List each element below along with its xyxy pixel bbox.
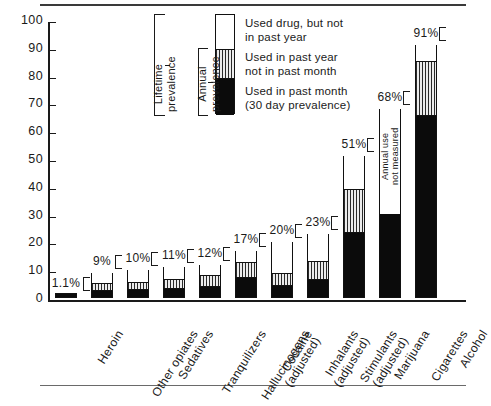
- bar-sedatives[interactable]: [127, 270, 149, 298]
- bar-segment-lifetime-only: [236, 250, 256, 263]
- bar-slot: 91%: [415, 20, 437, 298]
- bar-value-brace: [115, 255, 122, 269]
- bar-segment-past-month: [164, 289, 184, 297]
- bar-segment-lifetime-only: [92, 272, 112, 283]
- bar-value-label: 11%: [162, 248, 186, 262]
- lifetime-prevalence-label: Lifetime prevalence: [152, 56, 178, 112]
- top-rule: [40, 4, 466, 6]
- bar-slot: 1.1%: [55, 20, 77, 298]
- bar-slot: 10%: [127, 20, 149, 298]
- y-axis-tick-label: 40: [28, 180, 43, 194]
- bar-alcohol[interactable]: [415, 45, 437, 298]
- y-axis-tick-label: 70: [28, 96, 43, 110]
- bar-segment-past-month: [56, 294, 76, 297]
- bracket-label-line2: prevalence: [209, 56, 222, 112]
- bar-value-brace: [223, 247, 230, 261]
- bar-segment-lifetime-only: [416, 44, 436, 61]
- y-axis-tick-label: 90: [28, 41, 43, 55]
- bar-cocaine[interactable]: [235, 251, 257, 298]
- bar-annotation-cigarettes: Annual usenot measured: [380, 128, 401, 185]
- bar-heroin[interactable]: [55, 293, 77, 298]
- bar-segment-past-month: [128, 290, 148, 297]
- y-axis-tick-label: 30: [28, 208, 43, 222]
- legend-swatch-white: [216, 15, 234, 49]
- bar-segment-past-month: [416, 116, 436, 297]
- legend-item-line2: (30 day prevalence): [245, 98, 350, 112]
- bar-slot: 51%: [343, 20, 365, 298]
- bar-hallucinogens-adjusted[interactable]: [199, 265, 221, 298]
- bar-segment-past-month: [380, 214, 400, 297]
- bar-value-label: 17%: [234, 232, 259, 246]
- bar-value-brace: [439, 27, 446, 41]
- y-axis-tick-label: 0: [36, 291, 43, 305]
- bar-segment-past-year: [344, 189, 364, 233]
- bar-segment-past-month: [308, 280, 328, 297]
- bar-value-label: 20%: [270, 223, 295, 237]
- bar-segment-past-year: [92, 283, 112, 291]
- x-axis-baseline: [48, 300, 466, 302]
- legend-item-line1: Used in past month: [245, 84, 350, 98]
- bar-segment-lifetime-only: [128, 269, 148, 282]
- legend-item-lifetime-only: Used drug, but not in past year: [245, 16, 343, 45]
- bracket-label-line1: Annual: [196, 56, 209, 112]
- bar-stimulants-adjusted[interactable]: [307, 234, 329, 298]
- bottom-rule: [40, 385, 466, 386]
- bar-segment-past-year: [128, 282, 148, 290]
- bar-inhalants-adjusted[interactable]: [271, 242, 293, 298]
- bar-segment-past-year: [416, 61, 436, 117]
- bar-marijuana[interactable]: [343, 156, 365, 298]
- bar-segment-past-year: [272, 273, 292, 286]
- bar-value-label: 91%: [414, 26, 439, 40]
- bar-segment-past-month: [344, 233, 364, 297]
- bar-other-opiates[interactable]: [91, 273, 113, 298]
- bar-segment-past-month: [236, 278, 256, 297]
- bar-segment-lifetime-only: [272, 241, 292, 273]
- y-axis-tick-label: 20: [28, 235, 43, 249]
- y-axis-tick-label: 50: [28, 152, 43, 166]
- bar-value-label: 1.1%: [52, 276, 81, 290]
- bar-value-brace: [331, 216, 338, 230]
- bar-segment-past-month: [92, 291, 112, 297]
- bar-value-label: 9%: [93, 254, 111, 268]
- bar-segment-past-year: [236, 262, 256, 277]
- bar-segment-lifetime-only: [164, 266, 184, 279]
- bar-segment-past-year: [200, 275, 220, 288]
- bar-value-brace: [367, 138, 374, 152]
- bar-segment-past-month: [200, 287, 220, 297]
- y-axis-tick-label: 80: [28, 69, 43, 83]
- x-axis-label-heroin: Heroin: [95, 328, 126, 367]
- bar-slot: Annual usenot measured68%: [379, 20, 401, 298]
- legend-item-annual-not-month: Used in past year not in past month: [245, 50, 338, 79]
- legend-item-past-month: Used in past month (30 day prevalence): [245, 84, 350, 113]
- bar-cigarettes[interactable]: Annual usenot measured: [379, 109, 401, 298]
- bar-value-brace: [259, 233, 266, 247]
- y-axis-tick-label: 10: [28, 263, 43, 277]
- bar-value-label: 10%: [126, 251, 151, 265]
- y-axis-tick-mark: [50, 300, 56, 301]
- bar-annotation-line1: Annual use: [380, 128, 390, 185]
- bracket-label-line1: Lifetime: [152, 56, 165, 112]
- bar-segment-lifetime-only: [344, 155, 364, 188]
- bar-segment-lifetime-only: [200, 264, 220, 275]
- bar-value-label: 12%: [198, 246, 223, 260]
- bar-tranquilizers[interactable]: [163, 267, 185, 298]
- bar-annotation-line2: not measured: [390, 128, 400, 185]
- bar-value-label: 68%: [378, 90, 403, 104]
- legend-item-line1: Used drug, but not: [245, 16, 343, 30]
- bar-segment-lifetime-only: [308, 233, 328, 261]
- bar-value-brace: [187, 249, 194, 263]
- bar-segment-past-year: [164, 279, 184, 289]
- bar-value-brace: [403, 91, 410, 105]
- bracket-label-line2: prevalence: [165, 56, 178, 112]
- bar-value-label: 51%: [342, 137, 367, 151]
- bar-segment-past-year: [308, 261, 328, 280]
- annual-prevalence-label: Annual prevalence: [196, 56, 222, 112]
- bar-segment-past-month: [272, 286, 292, 297]
- bar-value-brace: [295, 224, 302, 238]
- bar-value-brace: [83, 277, 90, 291]
- x-axis-label-tranquilizers: Tranquilizers: [220, 328, 270, 396]
- legend-item-line1: Used in past year: [245, 50, 338, 64]
- bar-value-label: 23%: [306, 215, 331, 229]
- bar-value-brace: [151, 252, 158, 266]
- y-axis-tick-label: 60: [28, 124, 43, 138]
